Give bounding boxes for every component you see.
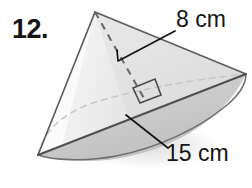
- problem-number-label: 12.: [12, 16, 48, 43]
- radius-measurement-label: 15 cm: [166, 142, 229, 165]
- cone-figure: 12. 8 cm 15 cm: [0, 0, 252, 188]
- height-measurement-label: 8 cm: [176, 8, 226, 31]
